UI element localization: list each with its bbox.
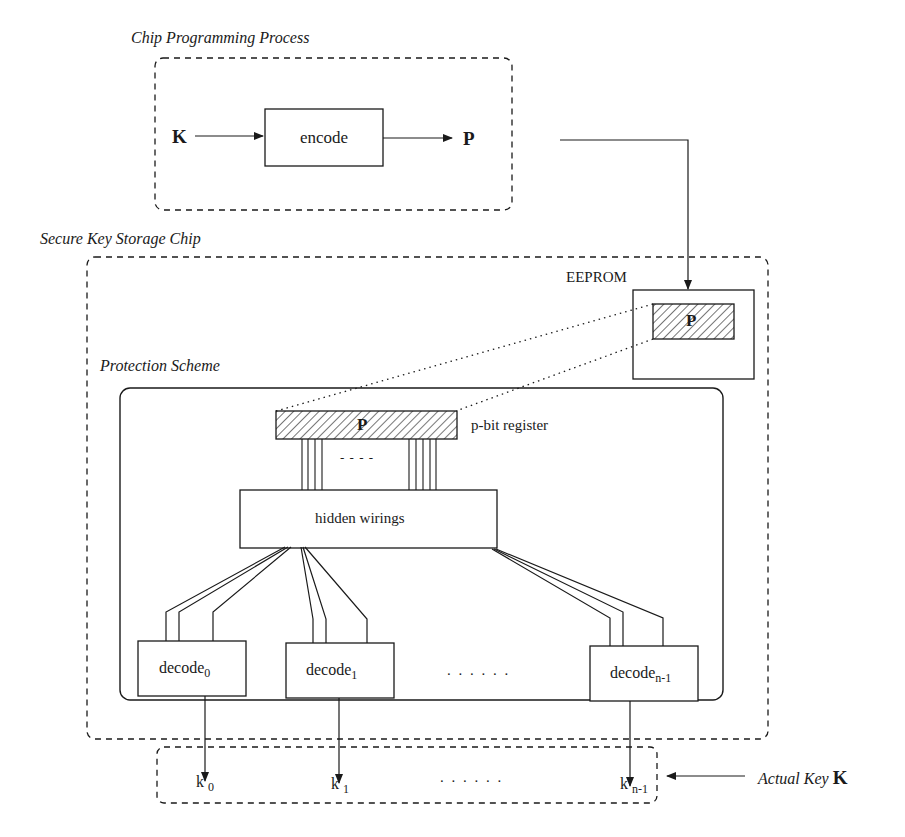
decoder-label-0: decode0 [159,660,210,679]
key-label-0: k 0 [196,774,214,793]
decoder-label-1: decode1 [306,662,357,681]
key-label-1: k 1 [331,776,349,795]
output-p-label: P [463,129,475,148]
diagram-canvas [0,0,905,837]
decoder-wires [166,547,663,646]
encode-label: encode [300,129,348,146]
mapping-line-top [276,304,653,411]
key-ellipsis: . . . . . . [440,770,503,785]
decoder-ellipsis: . . . . . . [447,663,510,678]
key-label-n-1: k n-1 [620,776,648,795]
actual-key-box [157,747,657,803]
arrow-p-to-eeprom [560,140,688,289]
hidden-wirings-label: hidden wirings [315,511,405,526]
wire-ellipsis: - - - - [340,451,374,464]
eeprom-p-label: P [686,312,696,329]
input-key-label: K [172,127,187,146]
mapping-line-bottom [456,339,653,411]
protection-scheme-title: Protection Scheme [100,358,220,374]
chip-programming-title: Chip Programming Process [131,30,309,46]
actual-key-label: Actual Key K [758,768,847,787]
eeprom-label: EEPROM [566,270,627,285]
register-p-label: P [357,416,367,433]
decoder-label-n-1: decoden-1 [610,665,671,684]
secure-chip-title: Secure Key Storage Chip [40,231,201,247]
register-label: p-bit register [471,418,548,433]
